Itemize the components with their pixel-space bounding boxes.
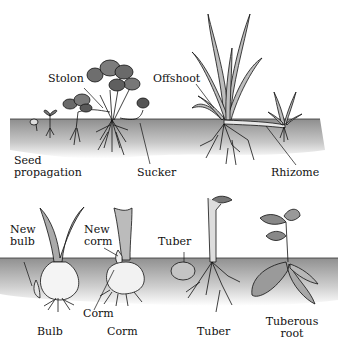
label-seed-propagation-2: propagation: [14, 167, 82, 179]
label-offshoot: Offshoot: [153, 73, 200, 85]
label-tuber-pointer: Tuber: [158, 236, 191, 248]
label-corm-pointer: Corm: [83, 308, 114, 320]
propagation-diagram: Stolon Offshoot Seed propagation Sucker …: [0, 0, 338, 343]
label-sucker: Sucker: [137, 167, 176, 179]
label-new-bulb-2: bulb: [10, 236, 35, 248]
label-corm: Corm: [107, 326, 138, 338]
new-corm-pointer: [104, 248, 118, 256]
label-tuber: Tuber: [197, 326, 230, 338]
label-stolon: Stolon: [48, 73, 84, 85]
label-new-corm-2: corm: [84, 236, 112, 248]
label-bulb: Bulb: [37, 326, 63, 338]
label-rhizome: Rhizome: [271, 167, 319, 179]
label-tuberous-root-2: root: [262, 328, 322, 340]
grass-plant-icon: [192, 14, 262, 120]
